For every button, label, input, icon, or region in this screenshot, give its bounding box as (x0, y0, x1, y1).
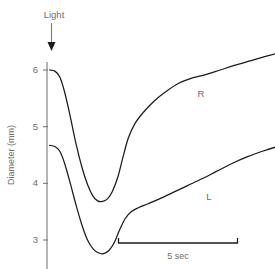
light-stimulus-label: Light (44, 9, 65, 20)
y-tick-label: 5 (33, 121, 38, 132)
y-tick-label: 3 (33, 234, 38, 245)
y-tick-label: 4 (33, 177, 38, 188)
y-tick-label: 6 (33, 64, 38, 75)
trace-l (50, 144, 275, 254)
y-axis: 6543 Diameter (mm) (6, 62, 48, 269)
time-scale-bar: 5 sec (118, 238, 238, 261)
pupil-diameter-chart: 6543 Diameter (mm) Light R L 5 sec (0, 0, 275, 269)
light-stimulus-annotation: Light (44, 9, 65, 51)
light-arrow-head-icon (48, 42, 56, 51)
y-axis-ticks: 6543 (33, 64, 48, 245)
trace-label-r: R (198, 88, 205, 99)
trace-group (50, 51, 275, 254)
trace-r (50, 51, 275, 202)
chart-svg: 6543 Diameter (mm) Light R L 5 sec (0, 0, 275, 269)
trace-label-l: L (206, 191, 211, 202)
y-axis-title: Diameter (mm) (6, 125, 16, 185)
scale-bar-label: 5 sec (167, 251, 189, 261)
